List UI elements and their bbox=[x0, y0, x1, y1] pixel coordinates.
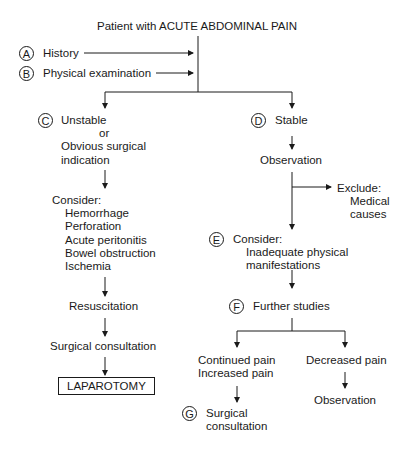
step-marker-e: E bbox=[209, 232, 224, 247]
consider-item: Acute peritonitis bbox=[65, 234, 147, 248]
or-label: or bbox=[99, 127, 109, 141]
consider-title-left: Consider: bbox=[52, 194, 101, 208]
unstable-label: Unstable bbox=[61, 114, 106, 128]
exclude-causes: causes bbox=[350, 208, 386, 222]
further-studies: Further studies bbox=[253, 300, 330, 314]
exclude-title: Exclude: bbox=[337, 182, 381, 196]
input-physical-exam: Physical examination bbox=[43, 67, 151, 81]
step-marker-f: F bbox=[229, 299, 244, 314]
decreased-pain: Decreased pain bbox=[306, 354, 387, 368]
step-marker-g: G bbox=[182, 406, 197, 421]
stable-label: Stable bbox=[275, 114, 308, 128]
exclude-medical: Medical bbox=[350, 195, 390, 209]
consider-title-right: Consider: bbox=[233, 233, 282, 247]
step-marker-b: B bbox=[19, 66, 34, 81]
indication-label: indication bbox=[61, 154, 110, 168]
step-marker-c: C bbox=[38, 113, 53, 128]
obvious-surgical-label: Obvious surgical bbox=[61, 140, 146, 154]
inadequate-physical: Inadequate physical bbox=[246, 246, 348, 260]
resuscitation-step: Resuscitation bbox=[69, 300, 138, 314]
chart-title: Patient with ACUTE ABDOMINAL PAIN bbox=[97, 20, 297, 34]
manifestations: manifestations bbox=[246, 259, 320, 273]
step-marker-d: D bbox=[251, 113, 266, 128]
consider-item: Ischemia bbox=[65, 260, 111, 274]
surgical-label-g: Surgical bbox=[206, 407, 248, 421]
consultation-label-g: consultation bbox=[206, 420, 267, 434]
laparotomy-box: LAPAROTOMY bbox=[58, 377, 155, 395]
continued-pain: Continued pain bbox=[198, 354, 275, 368]
consider-item: Perforation bbox=[65, 220, 121, 234]
step-marker-a: A bbox=[19, 46, 34, 61]
input-history: History bbox=[43, 47, 79, 61]
surgical-consultation-step: Surgical consultation bbox=[50, 340, 156, 354]
increased-pain: Increased pain bbox=[198, 367, 273, 381]
observation-final: Observation bbox=[314, 394, 376, 408]
consider-item: Bowel obstruction bbox=[65, 247, 156, 261]
consider-item: Hemorrhage bbox=[65, 207, 129, 221]
observation-step: Observation bbox=[260, 154, 322, 168]
